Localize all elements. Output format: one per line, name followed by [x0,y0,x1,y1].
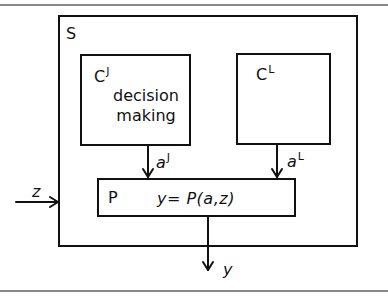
output-y-label: y [223,262,232,278]
signal-a-l-letter: a [287,152,297,171]
controller-l-box [236,53,331,145]
signal-a-j-letter: a [156,153,166,172]
controller-j-superscript: J [106,65,109,78]
top-rule [0,4,388,6]
bottom-rule [0,290,388,292]
controller-j-label: CJ [94,66,109,85]
process-equation: y= P(a,z) [157,191,235,207]
input-z-label: z [32,184,40,200]
controller-l-label: CL [256,64,274,83]
controller-j-letter: C [94,67,105,86]
controller-j-description: decision making [96,86,196,126]
signal-a-j-superscript: J [167,151,170,164]
description-line-1: decision [96,86,196,106]
controller-l-letter: C [256,65,267,84]
process-label: P [108,190,118,206]
signal-a-l-superscript: L [298,150,304,163]
signal-a-l-label: aL [287,151,304,170]
signal-a-j-label: aJ [156,152,170,171]
controller-l-superscript: L [268,63,274,76]
arrow-z-head [50,197,58,207]
description-line-2: making [96,106,196,126]
system-label: S [66,26,76,42]
arrow-y-head [203,262,213,270]
